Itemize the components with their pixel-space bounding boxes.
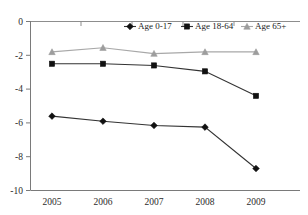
series-line bbox=[52, 64, 256, 96]
x-tick-label-2009: 2009 bbox=[247, 197, 266, 207]
y-tick-label-0: 0 bbox=[18, 17, 23, 27]
data-point bbox=[49, 113, 56, 120]
y-tick-label-5: -10 bbox=[10, 186, 23, 196]
y-tick-label-2: -4 bbox=[15, 84, 23, 94]
x-tick-label-2006: 2006 bbox=[94, 197, 113, 207]
x-axis: 2005 2006 2007 2008 2009 bbox=[31, 191, 301, 208]
series-age-0-17 bbox=[49, 113, 260, 172]
legend-item-age-0-17[interactable]: Age 0-17 bbox=[124, 21, 172, 31]
legend-label: Age 18-64 bbox=[195, 21, 234, 31]
data-point bbox=[253, 93, 258, 98]
series-age-18-64 bbox=[49, 61, 258, 98]
series-age-65 bbox=[49, 44, 259, 56]
legend-item-age-65[interactable]: Age 65+ bbox=[241, 21, 286, 31]
data-point bbox=[49, 61, 54, 66]
data-point bbox=[151, 122, 158, 129]
x-tick-label-2007: 2007 bbox=[145, 197, 164, 207]
legend-item-age-18-64[interactable]: Age 18-64 bbox=[181, 21, 234, 31]
data-point bbox=[100, 118, 107, 125]
y-tick-label-1: -2 bbox=[15, 51, 23, 61]
series-layer bbox=[49, 44, 260, 171]
x-tick-label-2008: 2008 bbox=[196, 197, 215, 207]
chart-legend: Age 0-17Age 18-64Age 65+ bbox=[124, 21, 286, 31]
line-chart: 0 -2 -4 -6 -8 -10 2005 2006 2007 2008 20… bbox=[0, 0, 308, 215]
legend-label: Age 65+ bbox=[255, 21, 286, 31]
data-point bbox=[202, 69, 207, 74]
data-point bbox=[151, 63, 156, 68]
y-axis: 0 -2 -4 -6 -8 -10 bbox=[10, 17, 30, 196]
x-tick-label-2005: 2005 bbox=[43, 197, 62, 207]
legend-label: Age 0-17 bbox=[138, 21, 172, 31]
chart-container: 0 -2 -4 -6 -8 -10 2005 2006 2007 2008 20… bbox=[0, 0, 308, 215]
y-tick-label-4: -8 bbox=[15, 152, 23, 162]
y-tick-label-3: -6 bbox=[15, 118, 23, 128]
data-point bbox=[100, 61, 105, 66]
legend-swatch-marker bbox=[184, 24, 189, 29]
